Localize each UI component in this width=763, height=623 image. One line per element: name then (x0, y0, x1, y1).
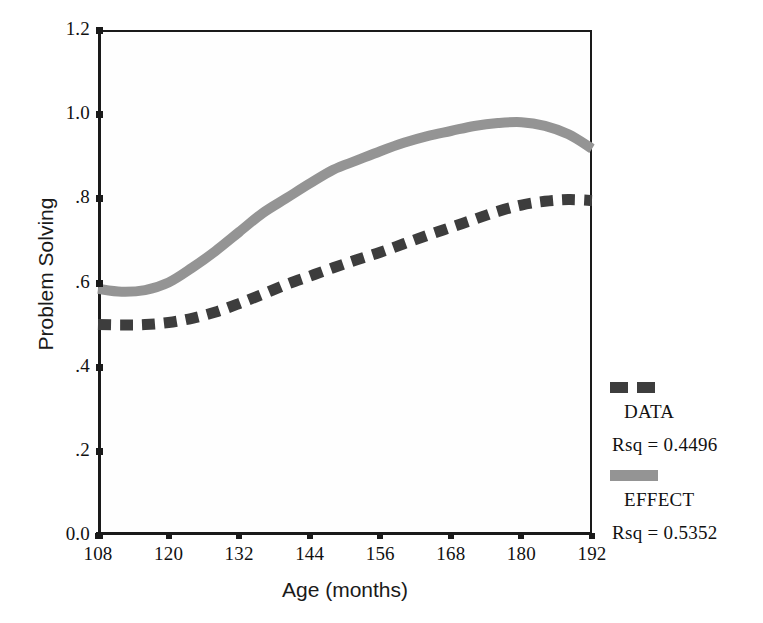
y-tick-mark (96, 364, 103, 371)
x-tick-mark (448, 533, 454, 539)
x-tick-mark (589, 533, 595, 539)
x-tick-label: 144 (295, 543, 324, 564)
x-tick-label: 180 (507, 543, 536, 564)
x-tick-mark (95, 533, 101, 539)
plot-curves (98, 30, 592, 535)
y-tick-mark (96, 280, 103, 287)
x-tick-mark (377, 533, 383, 539)
data-curve (98, 200, 592, 325)
legend-entry-data: DATA Rsq = 0.4496 (610, 382, 760, 454)
x-tick-label-wrap: 108 (63, 543, 133, 565)
y-tick-label: .2 (32, 439, 90, 461)
chart-legend: DATA Rsq = 0.4496 EFFECT Rsq = 0.5352 (610, 382, 760, 558)
y-tick-label-wrap: 0.0 (16, 523, 90, 545)
x-tick-label-wrap: 156 (345, 543, 415, 565)
y-tick-label: 1.0 (32, 102, 90, 124)
x-tick-label: 192 (577, 543, 606, 564)
y-tick-mark (96, 27, 103, 34)
x-tick-mark (307, 533, 313, 539)
y-axis-title: Problem Solving (34, 124, 58, 424)
effect-curve (98, 122, 592, 292)
x-tick-label-wrap: 168 (416, 543, 486, 565)
legend-swatch-dashed-icon (610, 382, 658, 393)
legend-rsq-effect: Rsq = 0.5352 (612, 523, 760, 542)
x-tick-label: 168 (436, 543, 465, 564)
x-tick-label: 120 (154, 543, 183, 564)
y-tick-mark (96, 195, 103, 202)
x-axis-title: Age (months) (98, 578, 592, 602)
y-tick-mark (96, 448, 103, 455)
y-tick-label-wrap: .2 (16, 439, 90, 461)
legend-rsq-data: Rsq = 0.4496 (612, 435, 760, 454)
legend-entry-effect: EFFECT Rsq = 0.5352 (610, 470, 760, 542)
y-tick-label-wrap: 1.0 (16, 102, 90, 124)
legend-label-effect: EFFECT (624, 490, 760, 509)
y-tick-label: 0.0 (32, 523, 90, 545)
y-tick-label-wrap: 1.2 (16, 18, 90, 40)
legend-label-data: DATA (624, 402, 760, 421)
y-tick-label: 1.2 (32, 18, 90, 40)
chart-figure: 0.0.2.4.6.81.01.2 1081201321441561681801… (0, 0, 763, 623)
x-tick-label: 108 (83, 543, 112, 564)
x-tick-mark (236, 533, 242, 539)
x-tick-label: 132 (225, 543, 254, 564)
x-tick-label-wrap: 180 (486, 543, 556, 565)
x-tick-label: 156 (366, 543, 395, 564)
x-tick-label-wrap: 132 (204, 543, 274, 565)
x-tick-mark (518, 533, 524, 539)
legend-swatch-solid-icon (610, 470, 658, 481)
x-tick-label-wrap: 144 (275, 543, 345, 565)
x-tick-label-wrap: 120 (134, 543, 204, 565)
x-tick-mark (166, 533, 172, 539)
y-tick-mark (96, 111, 103, 118)
